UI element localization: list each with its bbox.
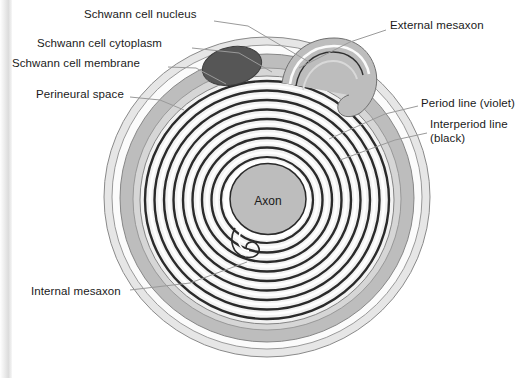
label-perineural-space: Perineural space bbox=[36, 88, 124, 102]
label-internal-mesaxon: Internal mesaxon bbox=[31, 285, 121, 299]
label-interperiod-line: Interperiod line bbox=[430, 118, 508, 132]
label-period-line-violet: Period line (violet) bbox=[421, 97, 515, 111]
label-interperiod-line-black: (black) bbox=[430, 132, 465, 146]
label-schwann-cell-membrane: Schwann cell membrane bbox=[12, 57, 140, 71]
figure-canvas: Axon Schwann cell nucleus Schwann cell c… bbox=[0, 0, 523, 378]
label-schwann-cell-nucleus: Schwann cell nucleus bbox=[84, 8, 197, 22]
axon-label: Axon bbox=[254, 194, 281, 208]
label-external-mesaxon: External mesaxon bbox=[390, 19, 484, 33]
label-schwann-cell-cytoplasm: Schwann cell cytoplasm bbox=[37, 37, 162, 51]
